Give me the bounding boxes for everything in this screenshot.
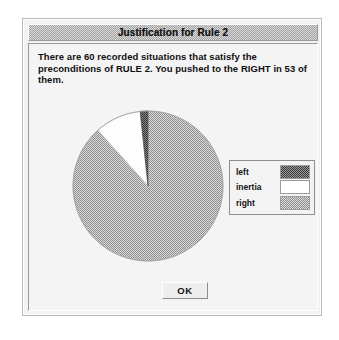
legend-swatch-left <box>280 165 310 179</box>
justification-message: There are 60 recorded situations that sa… <box>38 51 310 86</box>
legend-row-inertia: inertia <box>236 180 310 195</box>
legend-swatch-inertia <box>280 180 310 194</box>
legend-label-right: right <box>236 198 280 208</box>
message-line-1: There are 60 recorded situations that sa… <box>38 51 310 63</box>
dialog-window: Justification for Rule 2 There are 60 re… <box>22 18 322 316</box>
action-distribution-pie-chart <box>72 110 224 262</box>
legend-row-right: right <box>236 196 310 211</box>
window-title: Justification for Rule 2 <box>118 27 228 38</box>
message-line-3: them. <box>38 74 310 86</box>
legend-label-left: left <box>236 167 280 177</box>
ok-button[interactable]: OK <box>162 282 208 299</box>
title-bar[interactable]: Justification for Rule 2 <box>28 24 318 41</box>
legend-label-inertia: inertia <box>236 182 280 192</box>
legend-swatch-right <box>280 196 310 210</box>
chart-legend: left inertia right <box>229 160 315 215</box>
legend-row-left: left <box>236 164 310 179</box>
ok-button-label: OK <box>177 285 192 296</box>
pie-chart-svg <box>72 110 224 262</box>
message-line-2: preconditions of RULE 2. You pushed to t… <box>38 63 310 75</box>
dialog-client-area: There are 60 recorded situations that sa… <box>28 43 318 311</box>
